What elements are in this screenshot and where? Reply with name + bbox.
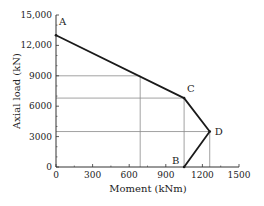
x-tick-label: 900	[157, 170, 174, 180]
y-tick-label: 3000	[29, 132, 52, 142]
interaction-curve	[56, 35, 210, 167]
x-tick-label: 1200	[191, 170, 214, 180]
x-tick-label: 300	[84, 170, 101, 180]
point-label-d: D	[215, 126, 223, 137]
y-tick-label: 6000	[29, 101, 52, 111]
y-tick-label: 0	[46, 162, 52, 172]
data-series: ACDB	[55, 16, 223, 168]
x-axis-label: Moment (kNm)	[109, 183, 186, 194]
point-label-c: C	[187, 83, 195, 94]
x-tick-label: 600	[121, 170, 138, 180]
y-tick-label: 12,000	[21, 40, 53, 50]
point-label-b: B	[172, 155, 179, 166]
x-tick-label: 0	[53, 170, 59, 180]
data-point	[183, 97, 186, 100]
y-tick-label: 9000	[29, 71, 52, 81]
data-point	[183, 166, 186, 169]
data-point	[55, 34, 58, 37]
data-point	[208, 130, 211, 133]
x-tick-label: 1500	[228, 170, 251, 180]
y-axis-label: Axial load (kN)	[11, 53, 22, 130]
point-label-a: A	[58, 16, 67, 27]
y-tick-label: 15,000	[21, 10, 53, 20]
interaction-chart: 030060090012001500030006000900012,00015,…	[0, 0, 264, 206]
